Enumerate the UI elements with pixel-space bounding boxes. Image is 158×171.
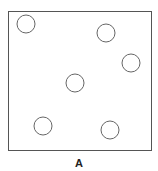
diagram-canvas: [0, 0, 158, 171]
circle-4: [66, 74, 84, 92]
circle-2: [97, 24, 115, 42]
circle-3: [122, 54, 140, 72]
circle-6: [101, 121, 119, 139]
panel-label: A: [0, 157, 158, 169]
circle-5: [34, 117, 52, 135]
circle-group: [17, 15, 140, 139]
circle-1: [17, 15, 35, 33]
